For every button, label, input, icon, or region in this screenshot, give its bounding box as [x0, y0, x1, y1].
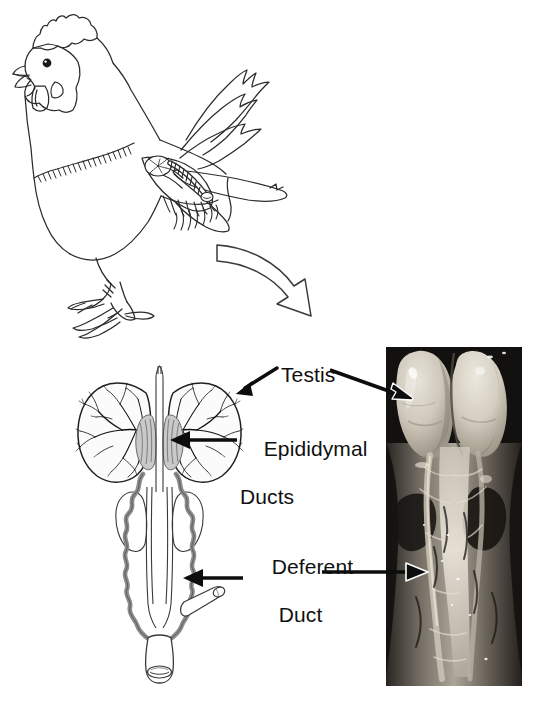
dissection-photograph — [386, 347, 522, 686]
ureter-left-inner — [151, 487, 153, 604]
ureter-right-inner — [166, 487, 168, 604]
midline-column — [156, 366, 163, 492]
cloaca-group — [146, 635, 174, 683]
epididymal-ducts-group — [136, 415, 183, 470]
label-testis: Testis — [281, 363, 335, 387]
label-epididymal-line1: Epididymal — [264, 437, 368, 460]
label-deferent-duct: Deferent Duct — [248, 531, 353, 675]
photo-testis-right-specular — [475, 367, 485, 375]
label-epididymal-line2: Ducts — [240, 485, 367, 509]
photo-bright-highlight-right — [480, 475, 492, 483]
aorta-tip — [156, 366, 163, 378]
photo-bright-highlight-left — [415, 462, 429, 468]
label-deferent-line2: Duct — [248, 603, 353, 627]
lateral-papilla-tube — [181, 585, 227, 616]
figure-root: Testis Epididymal Ducts Deferent Duct — [0, 0, 539, 706]
label-deferent-line1: Deferent — [272, 555, 353, 578]
ureters — [146, 487, 172, 628]
testes-group — [76, 383, 243, 482]
kidney-lobes — [116, 492, 203, 551]
aorta-tube — [156, 378, 163, 492]
